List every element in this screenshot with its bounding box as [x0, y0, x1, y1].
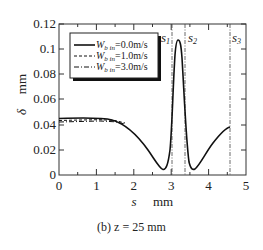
s2-label: s2 [188, 30, 197, 46]
y-axis-label: δ mm [14, 74, 29, 115]
line-chart: 0 0.02 0.04 0.06 0.08 0.1 0.12 0 1 2 3 4… [0, 0, 263, 215]
x-tick-labels: 0 1 2 3 4 5 [56, 178, 250, 193]
x-tick-label: 1 [93, 178, 100, 193]
y-tick-label: 0.06 [33, 91, 56, 106]
x-axis-symbol: s [131, 194, 136, 209]
x-axis-label: s mm [131, 194, 173, 209]
x-axis-unit: mm [153, 194, 173, 209]
s3-label: s3 [232, 30, 241, 46]
y-tick-labels: 0 0.02 0.04 0.06 0.08 0.1 0.12 [33, 16, 56, 182]
y-tick-label: 0.1 [40, 41, 56, 56]
y-tick-label: 0.04 [33, 117, 56, 132]
x-tick-label: 2 [131, 178, 138, 193]
x-tick-label: 3 [168, 178, 175, 193]
y-tick-label: 0.02 [33, 142, 56, 157]
x-tick-label: 0 [56, 178, 63, 193]
figure-caption: (b) z = 25 mm [0, 220, 263, 235]
reference-labels: s1 s2 s3 [161, 30, 241, 46]
y-axis-symbol: δ [14, 108, 29, 115]
y-tick-label: 0.12 [33, 16, 56, 31]
y-axis-unit: mm [14, 74, 29, 94]
s1-label: s1 [161, 30, 170, 46]
x-tick-label: 5 [243, 178, 250, 193]
y-tick-label: 0.08 [33, 66, 56, 81]
legend: Wb in=0.0m/s Wb in=1.0m/s Wb in=3.0m/s [70, 33, 161, 81]
x-tick-label: 4 [205, 178, 212, 193]
